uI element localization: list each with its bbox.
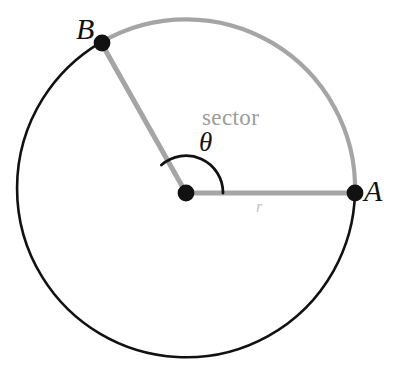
point-b-dot [94, 35, 111, 52]
point-a-dot [347, 185, 364, 202]
theta-angle-label: θ [199, 129, 212, 156]
center-point-dot [178, 185, 195, 202]
radius-length-label: r [256, 199, 262, 215]
sector-region-label: sector [202, 106, 259, 129]
sector-diagram-figure: A B sector θ r [0, 0, 396, 385]
point-a-label: A [364, 176, 382, 206]
point-b-label: B [76, 14, 94, 44]
radius-line-to-b [101, 42, 186, 193]
circle-sector-drawing [0, 0, 396, 385]
